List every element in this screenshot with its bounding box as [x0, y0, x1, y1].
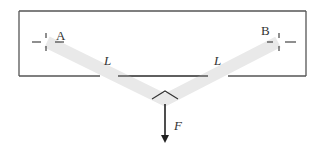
force-arrow-icon [161, 104, 169, 143]
member-right-label: L [213, 53, 221, 68]
member-band [47, 42, 278, 100]
diagram-canvas: A B L L F [0, 0, 323, 155]
support-b-label: B [261, 23, 270, 38]
support-a-label: A [56, 28, 66, 43]
member-left-label: L [103, 53, 111, 68]
force-label: F [173, 118, 183, 133]
